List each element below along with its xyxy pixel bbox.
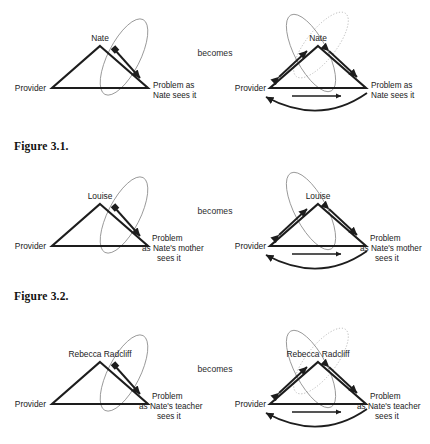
problem-node-label-line1: Problem bbox=[370, 234, 401, 243]
problem-node-label-line3: sees it bbox=[157, 254, 181, 263]
grouping-ellipse-dotted bbox=[285, 4, 358, 86]
problem-node-label-line2: as Nate's teacher bbox=[139, 402, 203, 411]
problem-node-label-line2: as Nate's mother bbox=[142, 244, 204, 253]
problem-node-label-line1: Problem bbox=[370, 392, 401, 401]
apex-to-problem-arrow bbox=[115, 366, 140, 394]
problem-node-label-line1: Problem bbox=[152, 234, 183, 243]
apex-node-label: Nate bbox=[309, 33, 327, 43]
becomes-label: becomes bbox=[198, 206, 233, 216]
figure-1-before: Nate Provider Problem as Nate sees it bbox=[15, 12, 197, 101]
problem-node-label-line3: sees it bbox=[375, 412, 399, 421]
apex-node-label: Louise bbox=[306, 191, 331, 201]
figure-3-diagram: Rebecca Radcliff Provider Problem as Nat… bbox=[0, 316, 430, 444]
provider-node-label: Provider bbox=[235, 83, 266, 93]
figure-1-diagram: Nate Provider Problem as Nate sees it be… bbox=[0, 0, 430, 130]
apex-node-label: Rebecca Radcliff bbox=[286, 349, 350, 359]
figure-group-3: Rebecca Radcliff Provider Problem as Nat… bbox=[0, 316, 430, 444]
relationship-triangle bbox=[270, 362, 366, 404]
provider-node-label: Provider bbox=[15, 83, 46, 93]
figure-page: Nate Provider Problem as Nate sees it be… bbox=[0, 0, 430, 444]
becomes-label: becomes bbox=[198, 48, 233, 58]
apex-to-problem-arrow bbox=[115, 50, 140, 78]
figure-2-after: Louise Provider Problem as Nate's mother… bbox=[235, 166, 422, 269]
figure-3-before: Rebecca Radcliff Provider Problem as Nat… bbox=[15, 328, 203, 421]
apex-node-label: Louise bbox=[88, 191, 113, 201]
becomes-label: becomes bbox=[198, 364, 233, 374]
problem-node-label-line2: as Nate's teacher bbox=[357, 402, 421, 411]
problem-node-label-line2: Nate sees it bbox=[371, 91, 415, 100]
figure-3-after: Rebecca Radcliff Provider Problem as Nat… bbox=[235, 320, 421, 426]
provider-apex-bidirectional-arrow bbox=[279, 209, 307, 235]
figure-caption-1: Figure 3.1. bbox=[14, 140, 69, 152]
provider-apex-bidirectional-arrow bbox=[279, 367, 307, 393]
figure-2-diagram: Louise Provider Problem as Nate's mother… bbox=[0, 158, 430, 288]
problem-node-label-line3: sees it bbox=[375, 254, 399, 263]
figure-caption-2: Figure 3.2. bbox=[14, 290, 69, 302]
provider-apex-bidirectional-arrow bbox=[279, 51, 307, 77]
problem-node-label-line2: Nate sees it bbox=[153, 91, 197, 100]
relationship-triangle bbox=[270, 46, 366, 88]
problem-node-label-line1: Problem as bbox=[371, 81, 412, 90]
apex-node-label: Nate bbox=[91, 33, 109, 43]
provider-node-label: Provider bbox=[235, 399, 266, 409]
provider-node-label: Provider bbox=[15, 399, 46, 409]
relationship-triangle bbox=[270, 204, 366, 246]
problem-node-label-line1: Problem as bbox=[153, 81, 194, 90]
figure-2-before: Louise Provider Problem as Nate's mother… bbox=[15, 170, 204, 263]
figure-1-after: Nate Provider Problem as Nate sees it bbox=[235, 4, 415, 110]
provider-node-label: Provider bbox=[235, 241, 266, 251]
grouping-ellipse-dotted bbox=[285, 320, 358, 402]
figure-group-2: Louise Provider Problem as Nate's mother… bbox=[0, 158, 430, 288]
problem-node-label-line2: as Nate's mother bbox=[360, 244, 422, 253]
problem-node-label-line3: sees it bbox=[157, 412, 181, 421]
figure-group-1: Nate Provider Problem as Nate sees it be… bbox=[0, 0, 430, 130]
problem-node-label-line1: Problem bbox=[152, 392, 183, 401]
apex-node-label: Rebecca Radcliff bbox=[68, 349, 132, 359]
apex-to-problem-arrow bbox=[115, 208, 140, 236]
provider-node-label: Provider bbox=[15, 241, 46, 251]
